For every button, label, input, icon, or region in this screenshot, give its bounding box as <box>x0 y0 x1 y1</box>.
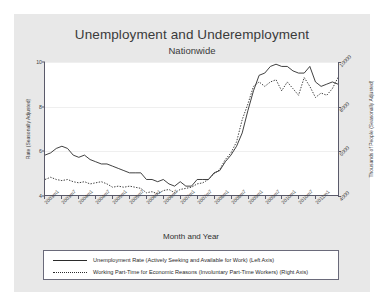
legend-item-part-time: Working Part-Time for Economic Reasons (… <box>53 266 308 278</box>
series-lines <box>45 62 338 195</box>
y-tick-label: 10 <box>36 59 42 65</box>
y-axis-left-title-text: Rate (Seasonally Adjusted) <box>25 99 31 159</box>
legend-key-solid-line <box>53 257 87 263</box>
legend-label: Working Part-Time for Economic Reasons (… <box>93 269 308 275</box>
plot-area: 46810 <box>44 62 338 196</box>
y-tick-label: 4 <box>39 193 42 199</box>
chart-screenshot: Unemployment and Underemployment Nationw… <box>0 0 384 306</box>
y-axis-right-title-text: Thousands of People (Seasonally Adjusted… <box>368 80 374 177</box>
legend-label: Unemployment Rate (Actively Seeking and … <box>93 257 274 263</box>
legend-item-unemployment-rate: Unemployment Rate (Actively Seeking and … <box>53 254 274 266</box>
y-axis-right-title: Thousands of People (Seasonally Adjusted… <box>366 62 376 196</box>
y-right-tick-label: 6000 <box>338 145 350 157</box>
x-axis-title: Month and Year <box>44 232 338 241</box>
legend-key-dotted-line <box>53 269 87 275</box>
graph-region: Unemployment and Underemployment Nationw… <box>14 14 370 292</box>
chart-title: Unemployment and Underemployment <box>14 27 370 42</box>
y-right-tick-label: 8000 <box>338 100 350 112</box>
y-tick-mark <box>42 62 45 63</box>
y-tick-label: 8 <box>39 104 42 110</box>
y-tick-mark <box>42 106 45 107</box>
series-line-0 <box>45 64 338 186</box>
y-axis-left-title: Rate (Seasonally Adjusted) <box>23 62 33 196</box>
series-line-1 <box>45 78 338 194</box>
chart-legend: Unemployment Rate (Actively Seeking and … <box>43 250 339 280</box>
y-tick-label: 6 <box>39 148 42 154</box>
y-tick-mark <box>42 151 45 152</box>
plot-inner <box>45 62 338 195</box>
y-right-tick-label: 4000 <box>338 190 350 202</box>
chart-subtitle: Nationwide <box>14 45 370 56</box>
y-axis-right-line <box>338 62 339 196</box>
